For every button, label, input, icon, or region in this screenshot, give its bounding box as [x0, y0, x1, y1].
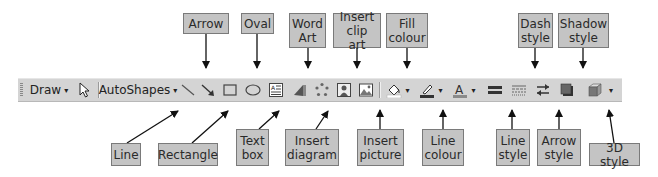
3d-style-icon — [587, 82, 603, 98]
line-colour-icon — [419, 82, 435, 98]
select-objects-button[interactable] — [74, 79, 96, 101]
callout-oval: Oval — [241, 13, 274, 34]
select-objects-icon — [78, 82, 92, 98]
chevron-down-icon[interactable]: ▾ — [471, 86, 475, 95]
draw-menu-button[interactable]: Draw ▾ — [27, 79, 71, 101]
callout-dash-style: Dash style — [518, 13, 553, 48]
callout-rectangle: Rectangle — [158, 143, 218, 166]
arrow-button[interactable] — [198, 79, 218, 101]
line-colour-button[interactable]: ▾ — [416, 79, 446, 101]
drawing-toolbar: Draw ▾ AutoShapes ▾ A ▾ ▾ — [18, 78, 622, 102]
callout-fill-colour: Fill colour — [386, 13, 428, 48]
oval-button[interactable] — [242, 79, 264, 101]
insert-picture-icon — [358, 82, 374, 98]
word-art-icon — [292, 82, 308, 98]
oval-icon — [244, 82, 262, 98]
chevron-down-icon[interactable]: ▾ — [609, 86, 613, 95]
toolbar-grip-handle[interactable] — [20, 83, 23, 97]
rectangle-button[interactable] — [220, 79, 240, 101]
arrow-icon — [200, 82, 216, 98]
svg-text:A: A — [455, 83, 464, 97]
callout-insert-picture: Insert picture — [357, 129, 404, 166]
shadow-style-button[interactable] — [556, 79, 578, 101]
dash-style-button[interactable] — [508, 79, 530, 101]
insert-diagram-button[interactable] — [312, 79, 332, 101]
insert-clip-art-icon — [336, 82, 352, 98]
chevron-down-icon: ▾ — [64, 86, 68, 95]
arrow-style-button[interactable] — [532, 79, 554, 101]
callout-shadow-style: Shadow style — [558, 13, 609, 48]
autoshapes-menu-button[interactable]: AutoShapes ▾ — [102, 79, 174, 101]
draw-label: Draw — [30, 83, 61, 97]
chevron-down-icon[interactable]: ▾ — [405, 86, 409, 95]
shadow-style-icon — [559, 82, 575, 98]
line-style-button[interactable] — [484, 79, 506, 101]
fill-colour-icon — [386, 82, 402, 98]
callout-word-art: Word Art — [289, 13, 326, 48]
insert-diagram-icon — [314, 82, 330, 98]
callout-arrow: Arrow — [183, 13, 229, 34]
text-box-button[interactable]: A — [266, 79, 286, 101]
insert-picture-button[interactable] — [356, 79, 376, 101]
callout-arrow-style: Arrow style — [537, 129, 581, 166]
arrow-style-icon — [535, 82, 551, 98]
rectangle-icon — [222, 82, 238, 98]
dash-style-icon — [511, 82, 527, 98]
line-style-icon — [487, 82, 503, 98]
chevron-down-icon: ▾ — [173, 86, 177, 95]
callout-insert-clip-art: Insert clip art — [333, 13, 381, 48]
callout-line-colour: Line colour — [422, 129, 464, 166]
callout-line-style: Line style — [496, 129, 530, 166]
word-art-button[interactable] — [290, 79, 310, 101]
text-box-icon: A — [268, 82, 284, 98]
callout-insert-diagram: Insert diagram — [285, 129, 339, 166]
font-colour-icon: A — [452, 82, 468, 98]
font-colour-button[interactable]: A ▾ — [449, 79, 479, 101]
chevron-down-icon[interactable]: ▾ — [438, 86, 442, 95]
callout-line: Line — [111, 143, 141, 166]
toolbar-separator — [379, 82, 381, 98]
autoshapes-label: AutoShapes — [99, 83, 171, 97]
line-button[interactable] — [178, 79, 198, 101]
callout-3d-style: 3D style — [589, 143, 640, 166]
line-icon — [180, 82, 196, 98]
3d-style-button[interactable]: ▾ — [582, 79, 618, 101]
callout-text-box: Text box — [236, 129, 269, 166]
insert-clip-art-button[interactable] — [334, 79, 354, 101]
fill-colour-button[interactable]: ▾ — [383, 79, 413, 101]
